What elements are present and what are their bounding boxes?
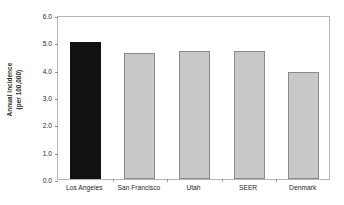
y-axis-tick-mark bbox=[55, 44, 58, 45]
y-axis-tick-label: 1.0 bbox=[28, 149, 52, 156]
bar-seer bbox=[234, 51, 265, 179]
bar-utah bbox=[179, 51, 210, 179]
y-axis-tick-label: 2.0 bbox=[28, 122, 52, 129]
y-axis-title-line-2: (per 100,000) bbox=[15, 63, 24, 117]
y-axis-tick-mark bbox=[55, 99, 58, 100]
x-axis-tick-label: Utah bbox=[186, 183, 200, 192]
plot-inner bbox=[58, 17, 329, 179]
y-axis-tick-mark bbox=[55, 17, 58, 18]
y-axis-tick-label: 6.0 bbox=[28, 13, 52, 20]
x-axis-tick-label: Los Angeles bbox=[66, 183, 102, 192]
plot-area bbox=[57, 16, 330, 180]
bar-denmark bbox=[288, 72, 319, 179]
bar-san-francisco bbox=[124, 53, 155, 179]
y-axis-tick-mark bbox=[55, 154, 58, 155]
y-axis-tick-mark bbox=[55, 72, 58, 73]
y-axis-tick-label: 0.0 bbox=[28, 177, 52, 184]
y-axis-tick-mark bbox=[55, 126, 58, 127]
y-axis-tick-label: 5.0 bbox=[28, 40, 52, 47]
y-axis-tick-label: 4.0 bbox=[28, 67, 52, 74]
y-axis-tick-mark bbox=[55, 181, 58, 182]
bar-chart-figure: Annual incidence (per 100,000) 0.01.02.0… bbox=[0, 0, 344, 205]
x-axis-tick-mark bbox=[276, 179, 277, 182]
x-axis-tick-mark bbox=[222, 179, 223, 182]
x-axis-tick-label: Denmark bbox=[289, 183, 316, 192]
x-axis-tick-label: SEER bbox=[239, 183, 257, 192]
y-axis-tick-label: 3.0 bbox=[28, 95, 52, 102]
y-axis-tick-labels: 0.01.02.03.04.05.06.0 bbox=[28, 16, 52, 180]
bar-los-angeles bbox=[70, 42, 101, 179]
x-axis-tick-mark bbox=[167, 179, 168, 182]
x-axis-tick-mark bbox=[113, 179, 114, 182]
x-axis-tick-labels: Los AngelesSan FranciscoUtahSEERDenmark bbox=[57, 183, 330, 199]
x-axis-tick-label: San Francisco bbox=[118, 183, 161, 192]
y-axis-title-line-1: Annual incidence bbox=[6, 63, 15, 117]
y-axis-title: Annual incidence (per 100,000) bbox=[0, 0, 30, 180]
